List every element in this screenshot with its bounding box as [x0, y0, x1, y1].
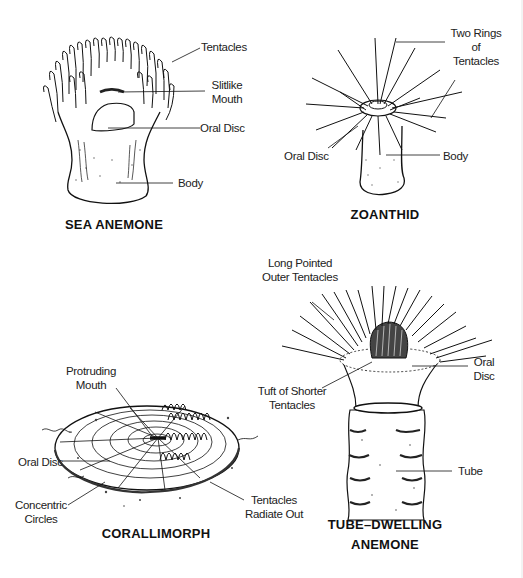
title-line: TUBE–DWELLING [320, 515, 450, 535]
label-corallimorph-oral-disc: Oral Disc [18, 455, 63, 469]
title-corallimorph: CORALLIMORPH [96, 526, 216, 541]
label-line: Tentacles [244, 493, 304, 507]
label-line: Tentacles [446, 54, 506, 68]
label-line: Radiate Out [244, 507, 304, 521]
label-line: Slitlike [206, 78, 248, 92]
label-line: Outer Tentacles [260, 270, 340, 284]
label-sea-anemone-mouth: Slitlike Mouth [206, 78, 248, 106]
title-line: ANEMONE [320, 535, 450, 555]
label-line: Circles [14, 512, 68, 526]
label-corallimorph-mouth: Protruding Mouth [64, 364, 118, 392]
diagram-artwork [0, 0, 523, 578]
title-sea-anemone: SEA ANEMONE [60, 217, 168, 232]
label-tube-oral-disc: Oral Disc [471, 355, 497, 383]
label-line: Mouth [64, 378, 118, 392]
label-line: Oral [471, 355, 497, 369]
title-zoanthid: ZOANTHID [340, 207, 430, 222]
label-line: Long Pointed [260, 256, 340, 270]
zoanthid-drawing [306, 38, 462, 195]
title-tube-dwelling-anemone: TUBE–DWELLING ANEMONE [320, 515, 450, 555]
label-line: Tuft of Shorter [252, 384, 332, 398]
label-tube-tube: Tube [458, 464, 483, 478]
label-line: Concentric [14, 498, 68, 512]
label-line: Mouth [206, 92, 248, 106]
label-sea-anemone-tentacles: Tentacles [201, 40, 247, 54]
corallimorph-drawing [42, 388, 258, 507]
label-sea-anemone-body: Body [178, 176, 203, 190]
label-zoanthid-oral-disc: Oral Disc [284, 149, 329, 163]
label-line: Disc [471, 369, 497, 383]
label-tube-tuft: Tuft of Shorter Tentacles [252, 384, 332, 412]
label-line: Tentacles [252, 398, 332, 412]
label-zoanthid-two-rings: Two Rings of Tentacles [446, 26, 506, 68]
label-corallimorph-circles: Concentric Circles [14, 498, 68, 526]
label-line: of [446, 40, 506, 54]
label-tube-outer-tentacles: Long Pointed Outer Tentacles [260, 256, 340, 284]
label-line: Two Rings [446, 26, 506, 40]
label-corallimorph-tentacles: Tentacles Radiate Out [244, 493, 304, 521]
label-zoanthid-body: Body [443, 149, 468, 163]
label-line: Protruding [64, 364, 118, 378]
label-sea-anemone-oral-disc: Oral Disc [200, 121, 245, 135]
